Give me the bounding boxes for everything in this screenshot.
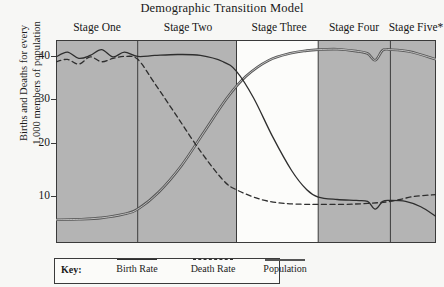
legend-entry-population: Population (247, 263, 323, 274)
legend-label-population: Population (263, 263, 306, 274)
stage-band (318, 40, 390, 243)
birth-rate-swatch-icon (117, 259, 157, 260)
legend-entry-birth-rate: Birth Rate (99, 263, 175, 274)
population-swatch-icon (265, 259, 305, 261)
y-axis-label-line1: Births and Deaths for every (17, 21, 30, 145)
legend-entry-death-rate: Death Rate (175, 263, 251, 274)
stage-band (237, 40, 319, 243)
death-rate-swatch-icon (193, 259, 233, 260)
stage-label-four: Stage Four (318, 21, 390, 33)
legend-key-label: Key: (61, 264, 82, 275)
stage-label-two: Stage Two (138, 21, 238, 33)
stage-label-three: Stage Three (238, 21, 320, 33)
stage-label-one: Stage One (56, 21, 138, 33)
y-tick-label-10: 10 (26, 189, 50, 201)
page-title: Demographic Transition Model (0, 1, 444, 16)
chart-page: Demographic Transition Model Stage One S… (0, 0, 444, 287)
y-tick-label-20: 20 (26, 136, 50, 148)
chart-plot-area (56, 40, 436, 243)
y-tick-label-40: 40 (26, 49, 50, 61)
stage-label-five: Stage Five* (388, 21, 444, 33)
stage-bands (56, 40, 436, 243)
legend-label-birth-rate: Birth Rate (116, 263, 157, 274)
legend-box: Key: Birth Rate Death Rate Population (54, 258, 280, 284)
y-tick-label-30: 30 (26, 92, 50, 104)
legend-label-death-rate: Death Rate (191, 263, 236, 274)
stage-band (138, 40, 237, 243)
y-axis-label-line2: 1,000 members of population (30, 21, 43, 145)
